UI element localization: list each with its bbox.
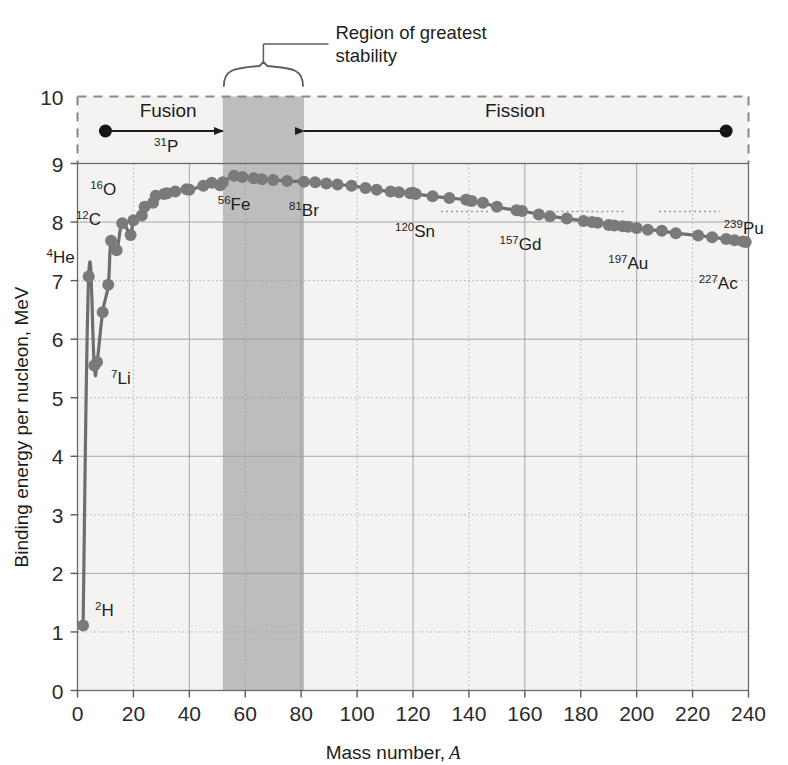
data-point [169, 186, 181, 198]
data-point [111, 244, 123, 256]
element-symbol: P [167, 137, 178, 156]
element-symbol: Sn [414, 222, 435, 241]
data-point [116, 217, 128, 229]
y-tick-label: 2 [52, 562, 64, 585]
element-symbol: H [101, 601, 113, 620]
element-symbol: Ac [718, 274, 738, 293]
element-symbol: Au [627, 254, 648, 273]
y-tick-label: 8 [52, 211, 64, 234]
element-symbol: He [53, 248, 75, 267]
data-point [320, 177, 332, 189]
mass-number: 31 [154, 136, 167, 148]
element-symbol: Li [117, 369, 130, 388]
data-point [217, 176, 229, 188]
x-tick-label: 140 [451, 702, 486, 725]
data-point [592, 217, 604, 229]
fusion-label: Fusion [140, 100, 197, 121]
x-tick-label: 40 [178, 702, 201, 725]
mass-number: 120 [395, 221, 414, 233]
stability-region-band [223, 97, 304, 691]
data-point [544, 210, 556, 222]
data-point [183, 184, 195, 196]
data-point [706, 231, 718, 243]
element-symbol: C [89, 210, 101, 229]
data-point [631, 222, 643, 234]
x-tick-label: 160 [507, 702, 542, 725]
data-point [561, 213, 573, 225]
y-tick-label: 5 [52, 387, 64, 410]
data-point [427, 190, 439, 202]
element-symbol: Gd [519, 235, 542, 254]
stability-label-line1: Region of greatest [335, 22, 486, 43]
element-symbol: Br [302, 201, 319, 220]
data-point [477, 197, 489, 209]
mass-number: 16 [90, 179, 103, 191]
x-tick-label: 240 [731, 702, 766, 725]
data-point [77, 620, 89, 632]
x-axis-title-variable: A [447, 742, 461, 763]
data-point [298, 176, 310, 188]
x-tick-label: 180 [563, 702, 598, 725]
mass-number: 157 [500, 234, 519, 246]
data-point [359, 182, 371, 194]
data-point [393, 186, 405, 198]
data-point [466, 195, 478, 207]
data-point [692, 230, 704, 242]
data-point [83, 271, 95, 283]
x-tick-label: 20 [122, 702, 145, 725]
fission-label: Fission [485, 100, 545, 121]
data-point [91, 356, 103, 368]
x-tick-label: 80 [289, 702, 312, 725]
data-point [533, 208, 545, 220]
data-point [642, 224, 654, 236]
stability-label-line2: stability [335, 45, 397, 66]
data-point [491, 201, 503, 213]
data-point [410, 188, 422, 200]
data-point [670, 227, 682, 239]
data-point [281, 175, 293, 187]
element-symbol: Pu [743, 219, 764, 238]
data-point [332, 179, 344, 191]
x-tick-label: 200 [619, 702, 654, 725]
data-point [236, 171, 248, 183]
y-tick-label: 4 [52, 445, 64, 468]
y-axis-title: Binding energy per nucleon, MeV [11, 286, 32, 567]
data-point [345, 180, 357, 192]
binding-energy-chart: 020406080100120140160180200220240 012345… [0, 0, 788, 765]
data-point [125, 229, 137, 241]
x-axis-title: Mass number, [326, 742, 445, 763]
mass-number: 81 [289, 200, 302, 212]
element-symbol: O [103, 180, 116, 199]
y-tick-label: 9 [52, 153, 64, 176]
y-tick-label: 7 [52, 270, 64, 293]
y-tick-label: 0 [52, 680, 64, 703]
data-point [656, 225, 668, 237]
data-point [267, 174, 279, 186]
data-point [97, 306, 109, 318]
data-point [371, 184, 383, 196]
x-tick-label: 120 [395, 702, 430, 725]
y-tick-label: 10 [40, 86, 63, 109]
element-symbol: Fe [231, 195, 251, 214]
x-tick-label: 0 [72, 702, 84, 725]
x-tick-label: 60 [234, 702, 257, 725]
mass-number: 12 [76, 209, 89, 221]
mass-number: 56 [218, 194, 231, 206]
chart-canvas: 020406080100120140160180200220240 012345… [0, 0, 788, 765]
y-tick-label: 3 [52, 504, 64, 527]
mass-number: 239 [724, 218, 743, 230]
y-tick-label: 6 [52, 328, 64, 351]
data-point [516, 205, 528, 217]
x-tick-label: 100 [340, 702, 375, 725]
mass-number: 197 [608, 253, 627, 265]
y-tick-label: 1 [52, 621, 64, 644]
mass-number: 227 [699, 273, 718, 285]
data-point [256, 173, 268, 185]
x-tick-label: 220 [675, 702, 710, 725]
data-point [443, 192, 455, 204]
data-point [309, 176, 321, 188]
data-point [102, 279, 114, 291]
